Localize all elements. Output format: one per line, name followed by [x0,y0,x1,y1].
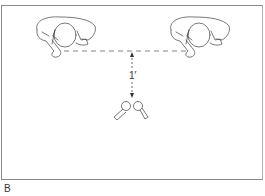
diagram-canvas [0,0,265,196]
right-person-icon [171,17,230,57]
panel-label: B [4,183,11,194]
distance-label: 1′ [129,70,136,81]
microphone-pair-icon [114,102,148,121]
